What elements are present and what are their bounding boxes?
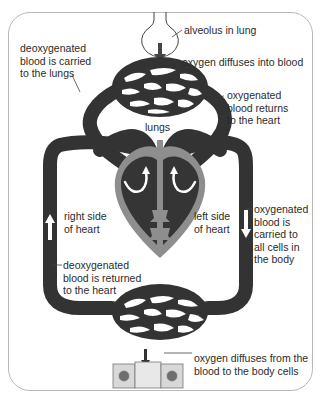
label-oxygen-into-blood: oxygen diffuses into blood (182, 56, 303, 69)
label-right-side-of-heart: right side of heart (64, 210, 107, 235)
label-oxygen-to-cells: oxygen diffuses from the blood to the bo… (194, 352, 308, 377)
label-oxygenated-returns: oxygenated blood returns to the heart (227, 89, 288, 127)
label-oxygenated-to-cells: oxygenated blood is carried to all cells… (254, 203, 308, 266)
body-cells (113, 362, 183, 388)
label-deoxygenated-returned: deoxygenated blood is returned to the he… (63, 259, 141, 297)
label-left-side-of-heart: left side of heart (194, 210, 230, 235)
label-deoxygenated-to-lungs: deoxygenated blood is carried to the lun… (20, 42, 91, 80)
heart (115, 140, 205, 258)
label-alveolus: alveolus in lung (184, 24, 256, 37)
label-lungs: lungs (145, 121, 170, 134)
